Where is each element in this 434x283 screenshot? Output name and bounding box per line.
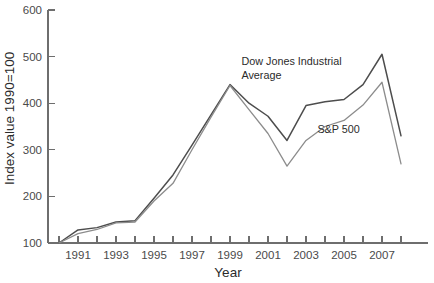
series-line-djia <box>59 54 401 243</box>
x-tick-label: 2007 <box>369 249 395 261</box>
y-axis-title: Index value 1990=100 <box>2 52 17 185</box>
chart-container: 600500400300200100 Index value 1990=100 … <box>0 0 434 283</box>
x-axis-tick-labels: 199119931995199719992001200320052007 <box>65 249 395 261</box>
djia-series-label-line2: Average <box>241 69 281 81</box>
y-axis-tick-labels: 600500400300200100 <box>23 4 42 249</box>
line-chart: 600500400300200100 Index value 1990=100 … <box>0 0 434 283</box>
x-tick-label: 1999 <box>217 249 243 261</box>
djia-series-label-line1: Dow Jones Industrial <box>241 55 341 67</box>
x-tick-label: 1993 <box>103 249 129 261</box>
y-axis-group: 600500400300200100 Index value 1990=100 <box>2 4 55 249</box>
y-tick-label: 600 <box>23 4 42 16</box>
x-axis-group: 199119931995199719992001200320052007 Yea… <box>48 236 428 280</box>
x-tick-label: 2001 <box>255 249 281 261</box>
y-tick-label: 400 <box>23 97 42 109</box>
y-tick-label: 200 <box>23 190 42 202</box>
y-tick-label: 100 <box>23 237 42 249</box>
y-axis-ticks <box>48 10 55 243</box>
x-tick-label: 1991 <box>65 249 91 261</box>
x-axis-title: Year <box>214 265 242 280</box>
y-tick-label: 500 <box>23 51 42 63</box>
series-line-sp500 <box>59 82 401 243</box>
data-series-group <box>59 54 401 243</box>
x-tick-label: 1995 <box>141 249 167 261</box>
x-tick-label: 2005 <box>331 249 357 261</box>
sp500-series-label: S&P 500 <box>317 123 359 135</box>
y-tick-label: 300 <box>23 144 42 156</box>
x-tick-label: 2003 <box>293 249 319 261</box>
x-axis-ticks <box>59 236 401 243</box>
x-tick-label: 1997 <box>179 249 205 261</box>
